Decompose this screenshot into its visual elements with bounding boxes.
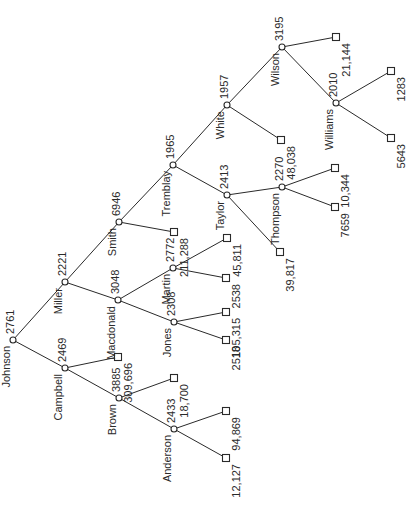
leaf-value-label: 7659 <box>339 213 351 237</box>
node-name-label: Campbell <box>52 374 64 420</box>
leaf-value-label: 94,869 <box>230 417 242 451</box>
internal-node-circle-icon <box>170 162 176 168</box>
node-value-label: 2010 <box>327 73 339 97</box>
node-name-label: Brown <box>106 404 118 435</box>
leaf-node-square-icon <box>388 68 395 75</box>
leaf-value-label: 21,144 <box>340 43 352 77</box>
leaf-node-square-icon <box>171 375 178 382</box>
internal-node-circle-icon <box>170 265 176 271</box>
leaf-node-square-icon <box>224 235 231 242</box>
leaf-node-square-icon <box>277 249 284 256</box>
leaf-value-label: 45,811 <box>231 244 243 277</box>
leaf-value-label: 211,288 <box>178 238 190 277</box>
leaf-node-square-icon <box>223 408 230 415</box>
tree-edge <box>174 429 226 458</box>
node-value-label: 6946 <box>110 192 122 216</box>
leaf-value-label: 1283 <box>395 77 407 101</box>
node-value-label: 2469 <box>56 338 68 362</box>
node-name-label: Jones <box>161 328 173 358</box>
tree-edge <box>336 103 391 138</box>
node-name-label: Tremblay <box>160 171 172 217</box>
node-value-label: 2772 <box>164 238 176 262</box>
tree-edge <box>282 37 336 47</box>
leaf-value-label: 309,696 <box>122 363 134 403</box>
node-name-label: Miller <box>52 288 64 315</box>
node-value-label: 2270 <box>273 157 285 181</box>
leaf-node-square-icon <box>278 137 285 144</box>
node-value-label: 1965 <box>164 135 176 159</box>
tree-edge <box>282 187 335 207</box>
internal-node-circle-icon <box>62 279 68 285</box>
tree-edge <box>174 312 226 322</box>
leaf-node-square-icon <box>223 455 230 462</box>
leaf-node-square-icon <box>333 34 340 41</box>
internal-node-circle-icon <box>279 44 285 50</box>
leaf-value-label: 39,817 <box>284 258 296 292</box>
leaf-value-label: 2518 <box>230 346 242 370</box>
tree-labels: Johnson2761Miller2221Campbell2469Smith69… <box>0 17 407 498</box>
node-value-label: 3885 <box>110 368 122 392</box>
node-name-label: Thompson <box>269 193 281 245</box>
leaf-node-square-icon <box>223 309 230 316</box>
leaf-value-label: 5643 <box>395 144 407 168</box>
leaf-node-square-icon <box>332 165 339 172</box>
node-name-label: Anderson <box>161 435 173 482</box>
node-value-label: 2761 <box>4 310 16 334</box>
node-name-label: White <box>214 111 226 139</box>
leaf-value-label: 10,344 <box>339 174 351 208</box>
node-name-label: Macdonald <box>105 306 117 360</box>
node-name-label: Wilson <box>269 53 281 86</box>
leaf-value-label: 12,127 <box>230 464 242 498</box>
internal-node-circle-icon <box>224 102 230 108</box>
tree-edge <box>227 105 281 140</box>
internal-node-circle-icon <box>62 365 68 371</box>
node-name-label: Johnson <box>0 346 12 388</box>
internal-node-circle-icon <box>116 219 122 225</box>
leaf-value-label: 2538 <box>230 284 242 308</box>
leaf-value-label: 48,038 <box>285 146 297 180</box>
node-value-label: 2308 <box>165 292 177 316</box>
node-value-label: 1957 <box>218 75 230 99</box>
node-value-label: 2221 <box>56 252 68 276</box>
leaf-node-square-icon <box>332 204 339 211</box>
internal-node-circle-icon <box>279 184 285 190</box>
leaf-node-square-icon <box>223 275 230 282</box>
node-name-label: Williams <box>323 109 335 150</box>
node-value-label: 2413 <box>218 165 230 189</box>
internal-node-circle-icon <box>224 192 230 198</box>
node-value-label: 3048 <box>109 270 121 294</box>
tree-edge <box>119 222 174 232</box>
tree-edge <box>174 322 226 340</box>
internal-node-circle-icon <box>333 100 339 106</box>
node-name-label: Smith <box>106 228 118 256</box>
node-value-label: 2433 <box>165 399 177 423</box>
leaf-node-square-icon <box>171 229 178 236</box>
internal-node-circle-icon <box>10 337 16 343</box>
node-value-label: 3195 <box>273 17 285 41</box>
node-name-label: Taylor <box>214 201 226 231</box>
leaf-node-square-icon <box>223 337 230 344</box>
internal-node-circle-icon <box>171 426 177 432</box>
internal-node-circle-icon <box>115 297 121 303</box>
tree-diagram: Johnson2761Miller2221Campbell2469Smith69… <box>0 0 411 506</box>
leaf-node-square-icon <box>388 135 395 142</box>
leaf-value-label: 18,700 <box>178 384 190 418</box>
internal-node-circle-icon <box>171 319 177 325</box>
